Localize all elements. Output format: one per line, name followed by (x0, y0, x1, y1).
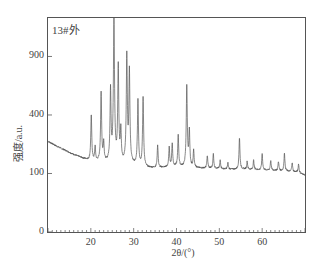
sample-annotation: 13#外 (52, 21, 80, 37)
x-tick-label: 40 (165, 236, 189, 247)
y-tick-label: 0 (14, 225, 44, 236)
x-tick-label: 30 (122, 236, 146, 247)
x-tick-label: 60 (250, 236, 274, 247)
x-tick-label: 50 (207, 236, 231, 247)
diffraction-pattern-line (48, 17, 305, 175)
y-axis-label: 强度/a.u. (10, 109, 25, 179)
y-tick-label: 900 (14, 49, 44, 60)
xrd-chart (0, 0, 315, 274)
plot-frame (48, 18, 306, 233)
x-axis-label: 2θ/(°) (158, 247, 208, 258)
x-axis-ticks (48, 228, 305, 232)
x-tick-label: 20 (79, 236, 103, 247)
